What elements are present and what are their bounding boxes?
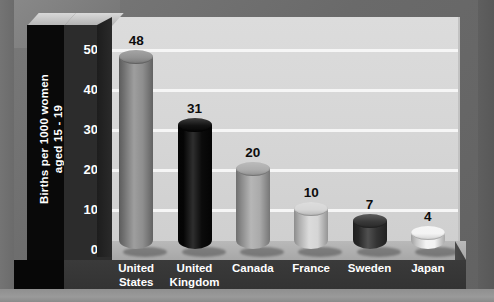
frame-right-edge	[478, 0, 494, 302]
bar[interactable]	[119, 50, 153, 249]
x-axis-categories: United StatesUnited KingdomCanadaFranceS…	[110, 262, 460, 292]
bar-top-cap	[353, 214, 387, 228]
axis-panel-side-face	[97, 17, 112, 257]
bar-value-label: 4	[398, 209, 458, 224]
bar[interactable]	[353, 214, 387, 249]
y-axis-tick-label: 10	[58, 202, 98, 217]
bar-body	[119, 57, 153, 249]
bar-top-cap	[236, 162, 270, 176]
bar-shadow	[357, 247, 401, 257]
y-axis-tick-label: 50	[58, 42, 98, 57]
bar-chart: 4831201074 Births per 1000 women aged 15…	[0, 0, 494, 302]
bar[interactable]	[236, 162, 270, 249]
bar[interactable]	[178, 118, 212, 249]
bar-top-cap	[411, 226, 445, 240]
frame-left-edge	[0, 0, 14, 302]
bar-top-cap	[294, 202, 328, 216]
bar-top-cap	[178, 118, 212, 132]
y-axis-tick-label: 40	[58, 82, 98, 97]
y-axis-tick-label: 20	[58, 162, 98, 177]
x-axis-category-label: Japan	[391, 262, 465, 276]
bar-value-label: 7	[340, 197, 400, 212]
bar-value-label: 31	[165, 101, 225, 116]
y-axis-tick-label: 0	[58, 242, 98, 257]
bar[interactable]	[411, 226, 445, 249]
frame-bottom-edge	[0, 289, 494, 302]
bar-value-label: 48	[106, 33, 166, 48]
bar-shadow	[182, 247, 226, 257]
base-corner-block	[14, 260, 64, 289]
bar-top-cap	[119, 50, 153, 64]
bar-series: 4831201074	[110, 17, 460, 249]
bar-body	[178, 125, 212, 249]
bar[interactable]	[294, 202, 328, 249]
y-axis-tick-label: 30	[58, 122, 98, 137]
bar-body	[236, 169, 270, 249]
bar-value-label: 10	[281, 185, 341, 200]
bar-value-label: 20	[223, 145, 283, 160]
